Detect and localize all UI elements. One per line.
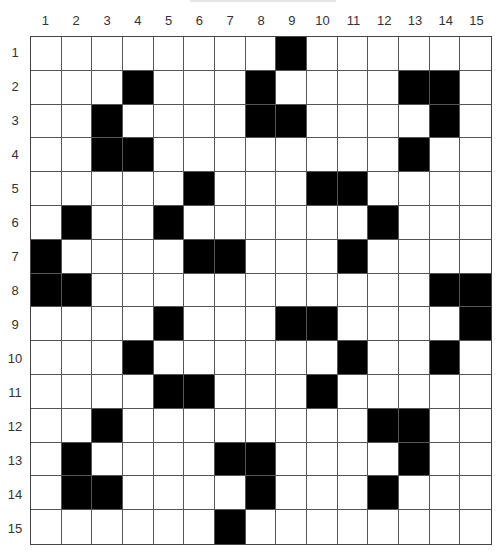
white-cell[interactable] [92, 240, 123, 274]
black-cell[interactable] [460, 307, 491, 341]
black-cell[interactable] [154, 206, 185, 240]
white-cell[interactable] [307, 138, 338, 172]
white-cell[interactable] [215, 341, 246, 375]
white-cell[interactable] [123, 307, 154, 341]
white-cell[interactable] [123, 206, 154, 240]
white-cell[interactable] [338, 375, 369, 409]
white-cell[interactable] [123, 510, 154, 544]
white-cell[interactable] [184, 274, 215, 308]
white-cell[interactable] [246, 138, 277, 172]
white-cell[interactable] [246, 206, 277, 240]
black-cell[interactable] [123, 71, 154, 105]
white-cell[interactable] [154, 341, 185, 375]
black-cell[interactable] [246, 71, 277, 105]
white-cell[interactable] [276, 409, 307, 443]
black-cell[interactable] [368, 206, 399, 240]
white-cell[interactable] [123, 443, 154, 477]
white-cell[interactable] [92, 341, 123, 375]
black-cell[interactable] [399, 71, 430, 105]
white-cell[interactable] [215, 206, 246, 240]
white-cell[interactable] [399, 307, 430, 341]
white-cell[interactable] [338, 105, 369, 139]
white-cell[interactable] [31, 71, 62, 105]
white-cell[interactable] [215, 172, 246, 206]
black-cell[interactable] [62, 476, 93, 510]
white-cell[interactable] [184, 138, 215, 172]
white-cell[interactable] [430, 172, 461, 206]
white-cell[interactable] [460, 240, 491, 274]
white-cell[interactable] [184, 510, 215, 544]
white-cell[interactable] [246, 274, 277, 308]
white-cell[interactable] [307, 510, 338, 544]
black-cell[interactable] [92, 138, 123, 172]
white-cell[interactable] [368, 240, 399, 274]
white-cell[interactable] [368, 105, 399, 139]
black-cell[interactable] [62, 206, 93, 240]
black-cell[interactable] [246, 476, 277, 510]
white-cell[interactable] [430, 476, 461, 510]
white-cell[interactable] [399, 510, 430, 544]
white-cell[interactable] [154, 71, 185, 105]
white-cell[interactable] [368, 375, 399, 409]
white-cell[interactable] [460, 206, 491, 240]
white-cell[interactable] [246, 375, 277, 409]
black-cell[interactable] [184, 375, 215, 409]
white-cell[interactable] [430, 409, 461, 443]
white-cell[interactable] [307, 274, 338, 308]
black-cell[interactable] [430, 341, 461, 375]
white-cell[interactable] [276, 172, 307, 206]
white-cell[interactable] [154, 172, 185, 206]
black-cell[interactable] [184, 172, 215, 206]
black-cell[interactable] [276, 105, 307, 139]
white-cell[interactable] [31, 375, 62, 409]
white-cell[interactable] [184, 105, 215, 139]
black-cell[interactable] [368, 409, 399, 443]
white-cell[interactable] [246, 341, 277, 375]
white-cell[interactable] [460, 443, 491, 477]
white-cell[interactable] [62, 341, 93, 375]
white-cell[interactable] [399, 206, 430, 240]
white-cell[interactable] [307, 206, 338, 240]
white-cell[interactable] [276, 206, 307, 240]
white-cell[interactable] [399, 341, 430, 375]
white-cell[interactable] [338, 274, 369, 308]
white-cell[interactable] [154, 443, 185, 477]
white-cell[interactable] [62, 510, 93, 544]
black-cell[interactable] [215, 240, 246, 274]
black-cell[interactable] [399, 443, 430, 477]
white-cell[interactable] [399, 37, 430, 71]
white-cell[interactable] [460, 375, 491, 409]
white-cell[interactable] [215, 138, 246, 172]
white-cell[interactable] [338, 138, 369, 172]
white-cell[interactable] [246, 307, 277, 341]
black-cell[interactable] [338, 172, 369, 206]
black-cell[interactable] [62, 443, 93, 477]
white-cell[interactable] [368, 510, 399, 544]
black-cell[interactable] [460, 274, 491, 308]
white-cell[interactable] [62, 240, 93, 274]
white-cell[interactable] [430, 206, 461, 240]
black-cell[interactable] [399, 409, 430, 443]
white-cell[interactable] [460, 105, 491, 139]
white-cell[interactable] [246, 510, 277, 544]
white-cell[interactable] [368, 443, 399, 477]
white-cell[interactable] [399, 172, 430, 206]
white-cell[interactable] [399, 105, 430, 139]
black-cell[interactable] [154, 307, 185, 341]
white-cell[interactable] [92, 37, 123, 71]
white-cell[interactable] [123, 476, 154, 510]
white-cell[interactable] [31, 138, 62, 172]
white-cell[interactable] [31, 206, 62, 240]
white-cell[interactable] [62, 172, 93, 206]
white-cell[interactable] [184, 206, 215, 240]
white-cell[interactable] [31, 105, 62, 139]
black-cell[interactable] [307, 375, 338, 409]
white-cell[interactable] [123, 37, 154, 71]
white-cell[interactable] [184, 443, 215, 477]
white-cell[interactable] [307, 240, 338, 274]
white-cell[interactable] [154, 105, 185, 139]
white-cell[interactable] [338, 37, 369, 71]
white-cell[interactable] [430, 307, 461, 341]
white-cell[interactable] [307, 409, 338, 443]
white-cell[interactable] [215, 307, 246, 341]
